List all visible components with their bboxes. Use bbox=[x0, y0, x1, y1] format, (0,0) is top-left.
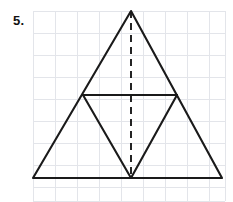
geometry-figure bbox=[0, 0, 233, 202]
triangle-figure-group bbox=[33, 11, 222, 178]
worksheet-page: 5. bbox=[0, 0, 233, 202]
